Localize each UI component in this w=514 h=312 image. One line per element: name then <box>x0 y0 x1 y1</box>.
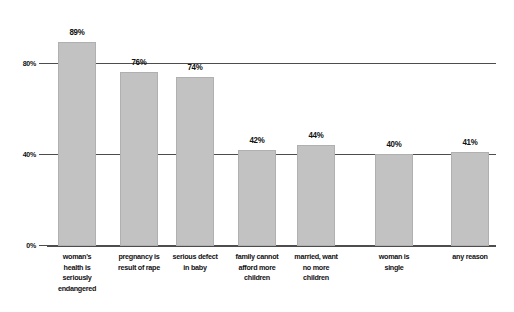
category-label-3: serious defect in baby <box>165 252 224 273</box>
category-label-6: woman is single <box>364 252 423 273</box>
bar-4[interactable] <box>238 150 276 246</box>
bar-value-2: 76% <box>121 57 156 67</box>
bar-5[interactable] <box>297 145 335 246</box>
bar-3[interactable] <box>176 77 214 246</box>
y-axis-label-0: 0% <box>6 241 36 250</box>
bar-chart: 80% 40% 0% 89% woman's health is serious… <box>0 0 514 312</box>
category-label-7: any reason <box>440 252 499 263</box>
bar-7[interactable] <box>451 152 489 246</box>
bar-1[interactable] <box>58 42 96 246</box>
bar-value-5: 44% <box>298 130 333 140</box>
category-label-1: woman's health is seriously endangered <box>47 252 106 294</box>
bar-2[interactable] <box>120 72 158 246</box>
tick-mark-40 <box>39 154 47 155</box>
bar-value-1: 89% <box>59 27 94 37</box>
gridline-80 <box>47 63 496 64</box>
tick-mark-0 <box>39 245 47 246</box>
category-label-5: married, want no more children <box>286 252 345 284</box>
bar-6[interactable] <box>375 154 413 246</box>
bar-value-4: 42% <box>239 135 274 145</box>
tick-mark-80 <box>39 63 47 64</box>
category-label-4: family cannot afford more children <box>227 252 286 284</box>
y-axis-label-40: 40% <box>6 150 36 159</box>
bar-value-3: 74% <box>177 62 212 72</box>
plot-area: 80% 40% 0% 89% woman's health is serious… <box>0 0 514 312</box>
y-axis-label-80: 80% <box>6 59 36 68</box>
category-label-2: pregnancy is result of rape <box>109 252 168 273</box>
bar-value-6: 40% <box>376 139 411 149</box>
bar-value-7: 41% <box>452 137 487 147</box>
